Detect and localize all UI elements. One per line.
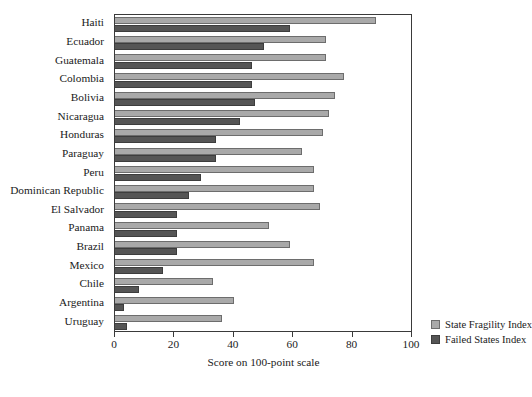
bar-group: [115, 15, 411, 34]
x-axis-tick-mark: [352, 332, 353, 337]
bar-state-fragility-index: [115, 315, 222, 322]
bar-state-fragility-index: [115, 259, 314, 266]
bar-state-fragility-index: [115, 129, 323, 136]
bar-group: [115, 52, 411, 71]
y-axis-category-labels: HaitiEcuadorGuatemalaColombiaBoliviaNica…: [0, 14, 110, 332]
bar-failed-states-index: [115, 230, 177, 237]
bar-state-fragility-index: [115, 92, 335, 99]
x-axis-tick-label: 0: [94, 338, 134, 350]
bar-group: [115, 313, 411, 332]
y-axis-label-brazil: Brazil: [0, 241, 104, 252]
dark-gray-swatch-icon: [431, 335, 440, 344]
x-axis-tick-label: 60: [272, 338, 312, 350]
x-axis-tick-mark: [411, 332, 412, 337]
bar-group: [115, 146, 411, 165]
bar-failed-states-index: [115, 304, 124, 311]
bar-failed-states-index: [115, 99, 255, 106]
bar-failed-states-index: [115, 267, 163, 274]
y-axis-label-paraguay: Paraguay: [0, 148, 104, 159]
y-axis-label-honduras: Honduras: [0, 129, 104, 140]
x-axis-tick-label: 100: [391, 338, 431, 350]
x-axis-ticks: 020406080100: [114, 332, 413, 356]
bar-failed-states-index: [115, 155, 216, 162]
legend-item-failed-states-index: Failed States Index: [431, 333, 527, 346]
bar-state-fragility-index: [115, 110, 329, 117]
bar-state-fragility-index: [115, 54, 326, 61]
x-axis-tick-label: 20: [153, 338, 193, 350]
legend-item-label: Failed States Index: [445, 334, 526, 345]
x-axis-title: Score on 100-point scale: [114, 356, 413, 368]
bar-failed-states-index: [115, 136, 216, 143]
bar-group: [115, 127, 411, 146]
y-axis-label-argentina: Argentina: [0, 297, 104, 308]
legend-item-state-fragility-index: State Fragility Index: [431, 318, 527, 331]
y-axis-label-uruguay: Uruguay: [0, 316, 104, 327]
bar-state-fragility-index: [115, 222, 269, 229]
bar-group: [115, 183, 411, 202]
bar-failed-states-index: [115, 286, 139, 293]
bar-group: [115, 201, 411, 220]
bar-failed-states-index: [115, 25, 290, 32]
bar-state-fragility-index: [115, 17, 376, 24]
y-axis-label-panama: Panama: [0, 222, 104, 233]
bar-failed-states-index: [115, 211, 177, 218]
light-gray-swatch-icon: [431, 320, 440, 329]
y-axis-label-haiti: Haiti: [0, 17, 104, 28]
bar-group: [115, 239, 411, 258]
y-axis-label-dominican-republic: Dominican Republic: [0, 185, 104, 196]
y-axis-label-nicaragua: Nicaragua: [0, 111, 104, 122]
bar-state-fragility-index: [115, 241, 290, 248]
y-axis-label-guatemala: Guatemala: [0, 55, 104, 66]
bar-group: [115, 90, 411, 109]
x-axis-tick-mark: [233, 332, 234, 337]
bar-state-fragility-index: [115, 297, 234, 304]
bar-group: [115, 71, 411, 90]
bar-failed-states-index: [115, 62, 252, 69]
bar-failed-states-index: [115, 174, 201, 181]
x-axis-tick-mark: [114, 332, 115, 337]
x-axis-tick-label: 80: [332, 338, 372, 350]
legend-item-label: State Fragility Index: [445, 319, 532, 330]
bar-group: [115, 295, 411, 314]
bar-state-fragility-index: [115, 278, 213, 285]
y-axis-label-mexico: Mexico: [0, 260, 104, 271]
bar-failed-states-index: [115, 43, 264, 50]
bar-failed-states-index: [115, 192, 189, 199]
y-axis-label-ecuador: Ecuador: [0, 36, 104, 47]
bar-state-fragility-index: [115, 166, 314, 173]
bar-state-fragility-index: [115, 203, 320, 210]
y-axis-label-colombia: Colombia: [0, 73, 104, 84]
y-axis-label-bolivia: Bolivia: [0, 92, 104, 103]
x-axis-tick-label: 40: [213, 338, 253, 350]
bar-rows-container: [115, 15, 411, 331]
bar-group: [115, 257, 411, 276]
bar-failed-states-index: [115, 248, 177, 255]
y-axis-label-el-salvador: El Salvador: [0, 204, 104, 215]
bar-failed-states-index: [115, 118, 240, 125]
bar-group: [115, 164, 411, 183]
plot-area: State Fragility Index Failed States Inde…: [114, 14, 412, 332]
chart-legend: State Fragility Index Failed States Inde…: [431, 318, 527, 348]
bar-state-fragility-index: [115, 36, 326, 43]
y-axis-label-chile: Chile: [0, 278, 104, 289]
bar-failed-states-index: [115, 323, 127, 330]
x-axis-tick-mark: [173, 332, 174, 337]
bar-group: [115, 34, 411, 53]
bar-group: [115, 108, 411, 127]
x-axis-tick-mark: [292, 332, 293, 337]
bar-group: [115, 276, 411, 295]
y-axis-label-peru: Peru: [0, 167, 104, 178]
bar-group: [115, 220, 411, 239]
bar-state-fragility-index: [115, 73, 344, 80]
bar-state-fragility-index: [115, 148, 302, 155]
bar-state-fragility-index: [115, 185, 314, 192]
bar-failed-states-index: [115, 81, 252, 88]
